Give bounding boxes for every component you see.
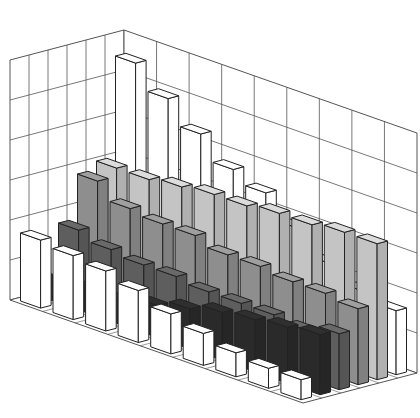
bar-1-5 bbox=[151, 304, 182, 354]
bar-side-face bbox=[339, 331, 349, 390]
bar-1-4 bbox=[118, 281, 149, 343]
bar-side-face bbox=[377, 241, 387, 380]
bar-1-6 bbox=[183, 324, 214, 366]
bar-front-face bbox=[53, 249, 73, 320]
bar-1-2 bbox=[53, 246, 84, 320]
bar-side-face bbox=[269, 366, 280, 389]
bar-side-face bbox=[138, 288, 149, 343]
bar-1-3 bbox=[86, 261, 117, 331]
bar-front-face bbox=[86, 264, 106, 331]
bar-side-face bbox=[358, 306, 368, 385]
bar-side-face bbox=[73, 253, 84, 320]
bar-front-face bbox=[21, 233, 41, 308]
bar-side-face bbox=[171, 311, 181, 354]
bar-side-face bbox=[396, 308, 406, 375]
bar-front-face bbox=[151, 307, 171, 354]
bar-side-face bbox=[301, 377, 311, 400]
chart-canvas bbox=[0, 0, 420, 418]
bar-side-face bbox=[236, 350, 246, 377]
bar-side-face bbox=[41, 237, 52, 308]
bar-side-face bbox=[106, 268, 116, 331]
bar-1-7 bbox=[216, 343, 247, 377]
bar-front-face bbox=[118, 283, 138, 342]
bar3d-chart bbox=[0, 0, 420, 418]
bar-side-face bbox=[320, 332, 330, 395]
bar-1-1 bbox=[21, 230, 52, 308]
bar-side-face bbox=[203, 331, 214, 366]
